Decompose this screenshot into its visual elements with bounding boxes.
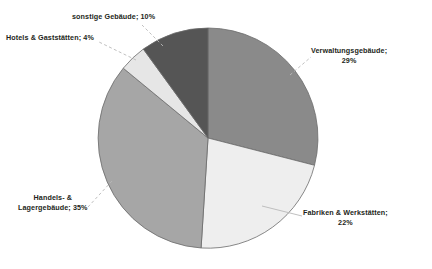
pie-label-verwaltungsgebaeude-line1: Verwaltungsgebäude;	[311, 46, 387, 56]
pie-label-sonstige-gebaeude-line1: sonstige Gebäude; 10%	[72, 12, 155, 22]
pie-chart: sonstige Gebäude; 10% Hotels & Gaststätt…	[0, 0, 432, 269]
pie-label-handels-lagergebaeude-line1: Handels- &	[18, 193, 88, 203]
pie-label-verwaltungsgebaeude: Verwaltungsgebäude; 29%	[311, 46, 387, 67]
pie-label-hotels-gaststaetten-line1: Hotels & Gaststätten; 4%	[6, 33, 94, 43]
pie-label-handels-lagergebaeude-line2: Lagergebäude; 35%	[18, 203, 88, 213]
pie-label-fabriken-werkstaetten-line1: Fabriken & Werkstätten;	[303, 208, 388, 218]
pie-label-fabriken-werkstaetten-line2: 22%	[303, 218, 388, 228]
pie-label-sonstige-gebaeude: sonstige Gebäude; 10%	[72, 12, 155, 22]
pie-label-hotels-gaststaetten: Hotels & Gaststätten; 4%	[6, 33, 94, 43]
pie-label-fabriken-werkstaetten: Fabriken & Werkstätten; 22%	[303, 208, 388, 229]
pie-label-verwaltungsgebaeude-line2: 29%	[311, 56, 387, 66]
pie-label-handels-lagergebaeude: Handels- & Lagergebäude; 35%	[18, 193, 88, 214]
leader-line-hotels-gaststaetten	[99, 42, 136, 60]
